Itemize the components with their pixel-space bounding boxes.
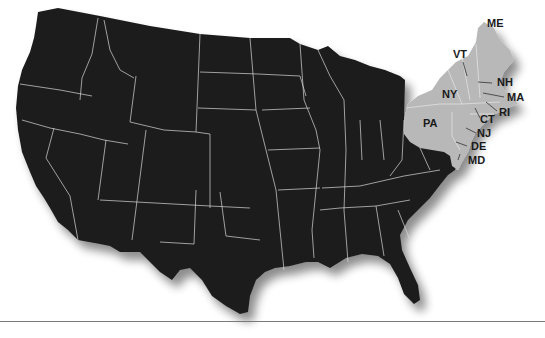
state-label-me: ME	[487, 17, 504, 29]
state-label-ri: RI	[499, 106, 510, 118]
baseline-rule	[0, 321, 545, 322]
state-label-nj: NJ	[477, 127, 491, 139]
state-label-ny: NY	[442, 88, 458, 100]
state-label-de: DE	[471, 140, 486, 152]
state-label-vt: VT	[453, 48, 467, 60]
us-map: ME VT NH NY MA RI PA CT NJ DE MD	[0, 0, 545, 338]
state-label-ct: CT	[480, 113, 495, 125]
state-label-pa: PA	[423, 117, 438, 129]
state-label-nh: NH	[497, 76, 513, 88]
state-label-md: MD	[468, 154, 485, 166]
northeast-region-shape	[404, 22, 518, 170]
state-label-ma: MA	[507, 91, 524, 103]
us-mainland-shape	[16, 8, 458, 314]
